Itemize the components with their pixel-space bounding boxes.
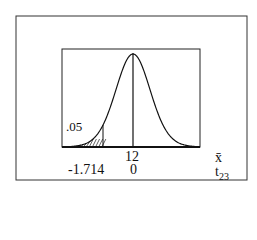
xbar-axis-label: x̄ [215,151,222,165]
t-axis-label: t23 [215,165,229,184]
center-t-tick-label: 0 [130,163,137,177]
tail-area-label: .05 [66,120,82,134]
critical-t-tick-label: -1.714 [68,163,104,177]
t-axis-label-subscript: 23 [219,171,229,182]
plot-frame [62,49,200,147]
